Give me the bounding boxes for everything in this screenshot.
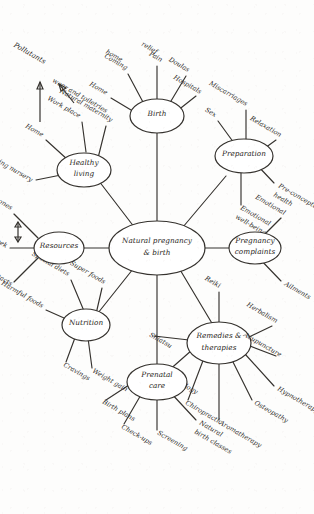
leaf-home-birth: Home: [87, 80, 109, 97]
resources-label: Resources: [39, 241, 79, 250]
pregnancy-complaints-label-line2: complaints: [235, 247, 276, 256]
edge-resources-useful-contacts: [14, 258, 38, 282]
leaf-useful-contacts: Useful contacts: [0, 255, 15, 288]
edge-healthy-natural-maternity-wear: [98, 126, 106, 158]
pregnancy-complaints-label-line1: Pregnancy: [234, 236, 275, 245]
leaf-herbalism: Herbalism: [244, 300, 279, 325]
branch-remedies-therapies: Remedies & therapies Herbalism Acupunctu…: [148, 274, 314, 450]
edge-nutrition-special-diets: [71, 280, 84, 311]
prenatal-label-line1: Prenatal: [140, 370, 173, 379]
mindmap-rotation-wrapper: Natural pregnancy & birth Preparation Re…: [0, 0, 314, 514]
remedies-label-line2: therapies: [202, 343, 237, 352]
leaf-weight-gain: Weight gain: [91, 367, 129, 394]
label-pollutants: Pollutants: [11, 41, 47, 66]
edge-birth-coming-home: [128, 74, 144, 104]
edge-center-nutrition: [94, 264, 137, 318]
branch-healthy-living: Healthy living Natural maternity wear an…: [0, 41, 114, 187]
leaf-home-healthy: Home: [23, 122, 45, 139]
leaf-super-foods: Super foods: [69, 259, 108, 286]
healthy-living-label-line2: living: [74, 169, 95, 178]
leaf-cravings: Cravings: [62, 361, 92, 383]
leaf-miscarriages: Miscarriages: [207, 79, 250, 108]
edge-remedies-osteopathy: [232, 360, 252, 400]
edge-healthy-home: [46, 140, 68, 160]
leaf-hypnotherapy: Hypnotherapy: [275, 384, 314, 415]
leaf-screening: Screening: [156, 429, 189, 453]
birth-label: Birth: [147, 109, 167, 118]
preparation-label: Preparation: [221, 149, 266, 158]
remedies-label-line1: Remedies &: [196, 331, 242, 340]
branch-preparation: Preparation Relaxation Pre-conceptual he…: [204, 79, 314, 237]
leaf-reiki: Reiki: [203, 274, 222, 290]
edge-healthy-work-place: [82, 122, 86, 152]
leaf-osteopathy: Osteopathy: [253, 399, 290, 425]
leaf-sex: Sex: [204, 106, 219, 119]
leaf-milestones: Milestones: [0, 186, 15, 212]
prenatal-label-line2: care: [149, 381, 165, 390]
leaf-natural-maternity-wear-line2: wear and toiletries: [51, 77, 109, 115]
branch-resources: Resources Milestones Week by week Useful…: [0, 186, 84, 288]
branch-prenatal-care: Prenatal care Natural birth classes Scre…: [100, 364, 234, 456]
mindmap-svg: Natural pregnancy & birth Preparation Re…: [0, 0, 314, 514]
home-to-pollutants-arrow: [37, 82, 43, 122]
healthy-living-label-line1: Healthy: [68, 158, 99, 167]
branch-nutrition: Nutrition Super foods Special diets Harm…: [0, 250, 129, 394]
leaf-checkups: Check-ups: [120, 423, 154, 447]
leaf-doulas: Doulas: [167, 55, 192, 74]
center-label-line2: & birth: [144, 248, 171, 257]
mindmap-canvas: Natural pregnancy & birth Preparation Re…: [0, 0, 314, 514]
node-center[interactable]: Natural pregnancy & birth: [109, 221, 205, 275]
nutrition-label: Nutrition: [68, 318, 103, 327]
center-label-line1: Natural pregnancy: [121, 236, 193, 245]
edge-remedies-hypnotherapy: [245, 354, 274, 386]
milestones-weekbyweek-double-arrow: [15, 222, 21, 242]
leaf-ailments: Ailments: [282, 279, 313, 301]
leaf-preparing-nursery: Preparing nursery: [0, 146, 34, 184]
edge-preparation-sex: [218, 121, 234, 143]
leaf-shiatsu: Shiatsu: [148, 331, 173, 350]
leaf-week-by-week: Week by week: [0, 219, 9, 249]
edge-center-remedies: [176, 263, 216, 330]
edge-nutrition-weight-gain: [88, 338, 92, 368]
leaf-relaxation: Relaxation: [248, 114, 283, 139]
